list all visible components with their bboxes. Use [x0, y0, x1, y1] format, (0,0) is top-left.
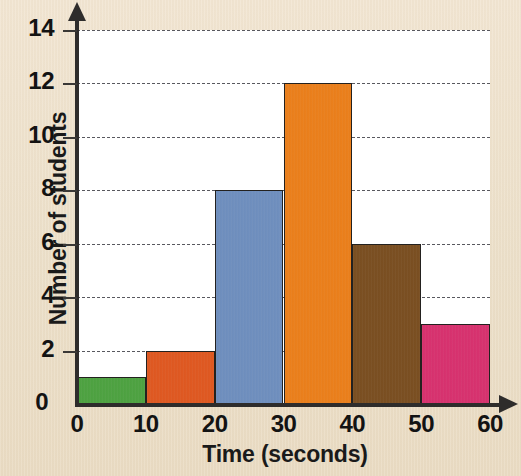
y-tick-12	[63, 83, 77, 85]
bar-50-60	[421, 324, 490, 404]
y-axis-line	[75, 18, 79, 406]
x-tick-label-40: 40	[327, 410, 377, 438]
y-tick-label-10: 10	[14, 121, 54, 149]
x-tick-label-30: 30	[259, 410, 309, 438]
y-axis-arrow-icon	[68, 2, 86, 21]
gridline-y-14	[77, 30, 490, 31]
y-tick-label-4: 4	[14, 281, 54, 309]
y-tick-label-8: 8	[14, 174, 54, 202]
bar-texture	[147, 352, 214, 403]
bar-10-20	[146, 351, 215, 404]
bar-texture	[422, 325, 489, 403]
bar-0-10	[77, 377, 146, 404]
bar-texture	[216, 191, 283, 403]
bar-40-50	[352, 244, 421, 404]
y-tick-label-2: 2	[14, 335, 54, 363]
x-tick-label-0: 0	[52, 410, 102, 438]
y-tick-4	[63, 297, 77, 299]
x-tick-label-60: 60	[465, 410, 515, 438]
y-tick-label-14: 14	[14, 14, 54, 42]
histogram-chart: Number of students Time (seconds) 024681…	[0, 0, 521, 476]
y-tick-2	[63, 351, 77, 353]
x-axis-line	[75, 403, 503, 407]
x-axis-title: Time (seconds)	[75, 441, 495, 468]
y-axis-title: Number of students	[45, 69, 72, 369]
bar-texture	[285, 84, 352, 403]
x-tick-label-10: 10	[121, 410, 171, 438]
x-tick-label-20: 20	[190, 410, 240, 438]
bar-30-40	[284, 83, 353, 404]
x-tick-label-50: 50	[396, 410, 446, 438]
bar-texture	[353, 245, 420, 403]
y-tick-label-6: 6	[14, 228, 54, 256]
y-tick-8	[63, 190, 77, 192]
plot-area	[77, 30, 490, 404]
y-tick-10	[63, 137, 77, 139]
bar-20-30	[215, 190, 284, 404]
y-tick-6	[63, 244, 77, 246]
y-tick-label-0: 0	[8, 388, 48, 416]
y-tick-14	[63, 30, 77, 32]
y-tick-label-12: 12	[14, 67, 54, 95]
bar-texture	[78, 378, 145, 403]
